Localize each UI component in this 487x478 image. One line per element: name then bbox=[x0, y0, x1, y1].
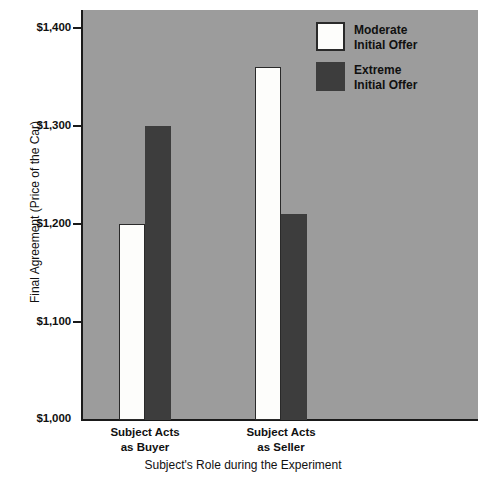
bar-chart: $1,400 $1,300 $1,200 $1,100 $1,000 Subje… bbox=[0, 0, 487, 478]
x-axis-title: Subject's Role during the Experiment bbox=[83, 458, 403, 472]
legend-item-moderate: Moderate Initial Offer bbox=[316, 22, 466, 52]
legend-label-extreme-line2: Initial Offer bbox=[354, 78, 417, 93]
legend-swatch-extreme-icon bbox=[316, 62, 345, 91]
category-label-seller-line2: as Seller bbox=[196, 440, 366, 455]
category-label-seller: Subject Acts as Seller bbox=[196, 425, 366, 455]
bar-buyer-extreme bbox=[145, 126, 171, 420]
y-tick-label-1000: $1,000 bbox=[9, 412, 71, 424]
legend-label-moderate-line2: Initial Offer bbox=[354, 38, 417, 53]
legend-label-moderate-line1: Moderate bbox=[354, 23, 417, 38]
bar-seller-moderate bbox=[255, 67, 281, 420]
legend-swatch-moderate-icon bbox=[316, 22, 345, 51]
y-tick-1100 bbox=[73, 321, 82, 323]
legend-item-extreme: Extreme Initial Offer bbox=[316, 62, 466, 92]
legend-label-extreme-line1: Extreme bbox=[354, 63, 417, 78]
y-tick-1200 bbox=[73, 223, 82, 225]
legend-label-moderate: Moderate Initial Offer bbox=[354, 22, 417, 52]
bar-buyer-moderate bbox=[119, 224, 145, 420]
y-tick-1400 bbox=[73, 27, 82, 29]
category-label-seller-line1: Subject Acts bbox=[196, 425, 366, 440]
y-axis-line bbox=[81, 10, 83, 421]
y-tick-label-1400: $1,400 bbox=[9, 21, 71, 33]
y-axis-title: Final Agreement (Price of the Car) bbox=[28, 82, 42, 342]
bar-seller-extreme bbox=[281, 214, 307, 420]
legend: Moderate Initial Offer Extreme Initial O… bbox=[316, 22, 466, 102]
y-tick-1300 bbox=[73, 125, 82, 127]
legend-label-extreme: Extreme Initial Offer bbox=[354, 62, 417, 92]
